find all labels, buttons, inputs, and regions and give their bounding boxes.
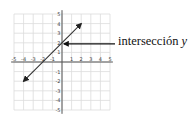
annotation-variable: y (182, 34, 188, 48)
svg-text:4: 4 (57, 21, 60, 27)
svg-text:-4: -4 (21, 56, 26, 62)
svg-text:-5: -5 (12, 56, 17, 62)
y-intercept-label: intersección y (118, 34, 187, 49)
coordinate-plane: -5-4-3-2-11234554321-1-2-3-4-5 (0, 0, 193, 125)
svg-text:-5: -5 (56, 107, 61, 113)
svg-text:5: 5 (57, 11, 60, 17)
svg-text:3: 3 (89, 56, 92, 62)
svg-text:1: 1 (57, 49, 60, 55)
svg-text:4: 4 (99, 56, 102, 62)
annotation-text: intersección (118, 34, 178, 48)
svg-text:2: 2 (80, 56, 83, 62)
svg-text:1: 1 (70, 56, 73, 62)
svg-text:-1: -1 (56, 69, 61, 75)
axes (11, 10, 113, 114)
svg-text:-1: -1 (50, 56, 55, 62)
svg-text:-3: -3 (56, 88, 61, 94)
svg-text:-4: -4 (56, 97, 61, 103)
svg-text:-2: -2 (56, 78, 61, 84)
svg-text:5: 5 (108, 56, 111, 62)
svg-text:3: 3 (57, 30, 60, 36)
svg-text:-3: -3 (31, 56, 36, 62)
